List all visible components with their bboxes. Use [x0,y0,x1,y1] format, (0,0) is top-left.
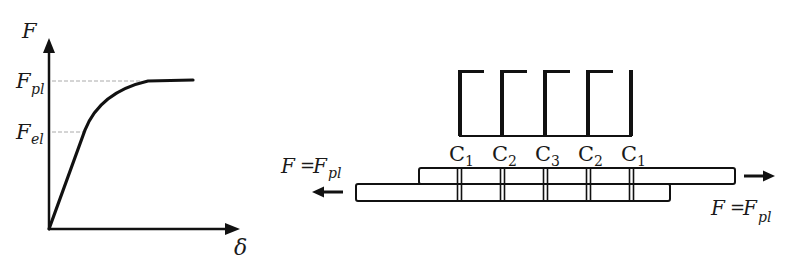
y-axis-label: F [21,19,38,43]
connector-label-4-sub: 2 [594,153,603,169]
top-plate [419,168,735,184]
lap-joint-plates [356,168,735,201]
force-displacement-plot: F δ F pl F el [15,19,247,260]
x-axis-arrow-icon [225,223,240,235]
connector-label-3-sub: 3 [551,153,560,169]
connector-label-5: C [621,142,637,166]
connector-label-1-sub: 1 [465,153,474,169]
fel-label-symbol: F [15,120,32,144]
left-force-subscript: pl [328,165,341,181]
x-axis-label: δ [234,235,247,260]
bottom-plate [356,184,670,201]
load-curve [49,80,193,229]
right-force-rhs: F [742,196,758,220]
connector-label-3: C [535,142,551,166]
connector-label-2-sub: 2 [508,153,517,169]
connector-label-4: C [578,142,594,166]
connector-labels: C 1 C 2 C 3 C 2 C 1 [449,142,646,169]
right-arrow-icon [763,171,775,182]
right-force-subscript: pl [758,209,771,225]
left-force: F = F pl [280,154,343,198]
figure-canvas: F δ F pl F el C 1 C 2 C 3 C 2 C 1 [0,0,787,273]
fel-label-subscript: el [31,131,44,147]
left-force-lhs: F [280,154,296,178]
left-arrow-icon [312,187,324,198]
y-axis-arrow-icon [43,38,55,53]
connector-label-5-sub: 1 [637,153,646,169]
connector-spring-model [458,70,632,136]
fpl-label-symbol: F [15,69,32,93]
connector-label-1: C [449,142,465,166]
fpl-label-subscript: pl [31,81,44,97]
left-force-rhs: F [312,154,328,178]
right-force-lhs: F [710,196,726,220]
connector-label-2: C [492,142,508,166]
